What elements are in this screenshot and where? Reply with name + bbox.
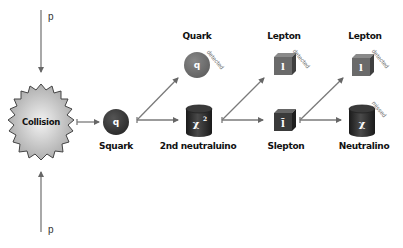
quark-label: Quark: [182, 31, 211, 41]
quark-node: q: [184, 52, 210, 78]
slepton-label: Slepton: [268, 141, 305, 151]
gray-cube-icon: l: [273, 52, 297, 76]
neutralino2-node: χ 2: [185, 104, 213, 138]
lepton1-node: l: [273, 52, 297, 76]
neutralino2-to-lepton-arrow: [222, 78, 264, 120]
slepton-node: l̃: [273, 108, 297, 132]
lepton2-symbol: l: [359, 62, 363, 73]
decay-chain-diagram: p p Collision q Squark Quark q detected: [0, 0, 403, 248]
collision-label: Collision: [22, 117, 60, 127]
neutralino2-symbol: χ: [193, 118, 200, 129]
slepton-to-lepton-arrow: [300, 78, 343, 120]
squark-to-quark-arrow: [137, 78, 178, 120]
slepton-symbol: l̃: [280, 118, 285, 129]
squark-label: Squark: [99, 141, 133, 151]
lepton2-label: Lepton: [348, 31, 381, 41]
neutralino-node: χ: [348, 104, 376, 138]
squark-symbol: q: [113, 117, 119, 127]
dark-cube-icon: l̃: [273, 108, 297, 132]
neutralino-label: Neutralino: [339, 141, 390, 151]
lepton2-node: l: [351, 53, 375, 77]
proton-top-label: p: [48, 11, 54, 22]
quark-symbol: q: [194, 60, 200, 70]
neutralino-symbol: χ: [359, 118, 366, 129]
neutralino2-superscript: 2: [203, 115, 207, 122]
cylinder-icon: χ: [348, 104, 376, 138]
collision-node: Collision: [6, 82, 76, 162]
cylinder-icon: χ 2: [185, 104, 213, 138]
lepton1-symbol: l: [281, 61, 285, 72]
squark-node: q: [103, 109, 129, 135]
lepton1-label: Lepton: [267, 31, 300, 41]
proton-bottom-label: p: [48, 224, 54, 235]
neutralino2-label: 2nd neutraluino: [160, 141, 237, 151]
gray-cube-icon: l: [351, 53, 375, 77]
